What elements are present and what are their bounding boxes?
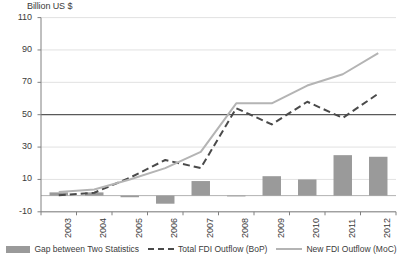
fdi-outflow-chart: Billion US $ 1109070503010-10 2003200420…	[0, 0, 403, 260]
line-series	[59, 53, 379, 192]
x-tick-label-2011: 2011	[347, 218, 357, 237]
x-tick-label-2007: 2007	[205, 218, 215, 238]
bar-swatch-icon	[6, 246, 30, 253]
x-tick-label-2004: 2004	[98, 218, 108, 238]
dashed-line-swatch-icon	[148, 248, 174, 250]
y-tick-label: 30	[8, 141, 32, 151]
legend-label-total-fdi: Total FDI Outflow (BoP)	[178, 244, 267, 254]
bar-2011	[334, 155, 352, 195]
bar-2008	[227, 196, 245, 197]
bar-2005	[121, 196, 139, 198]
solid-line-swatch-icon	[276, 248, 302, 250]
bar-2007	[192, 181, 210, 196]
bar-2006	[156, 196, 174, 204]
bar-2010	[298, 179, 316, 195]
x-tick-label-2006: 2006	[169, 218, 179, 238]
y-tick-label: 10	[8, 173, 32, 183]
line-series	[59, 94, 379, 196]
y-tick-label: 110	[8, 12, 32, 22]
y-tick-label: -10	[8, 206, 32, 216]
x-tick-label-2009: 2009	[276, 218, 286, 238]
legend-item-gap: Gap between Two Statistics	[6, 244, 139, 254]
bar-2012	[369, 157, 387, 196]
x-tick-label-2012: 2012	[382, 218, 392, 238]
x-tick-label-2003: 2003	[63, 218, 73, 238]
bar-2009	[263, 176, 281, 195]
legend-label-new-fdi: New FDI Outflow (MoC)	[306, 244, 396, 254]
x-tick-label-2005: 2005	[134, 218, 144, 238]
y-tick-label: 90	[8, 44, 32, 54]
y-tick-label: 50	[8, 109, 32, 119]
legend-item-new-fdi: New FDI Outflow (MoC)	[276, 244, 396, 254]
legend-item-total-fdi: Total FDI Outflow (BoP)	[148, 244, 267, 254]
y-tick-label: 70	[8, 76, 32, 86]
x-tick-label-2010: 2010	[311, 218, 321, 238]
legend-label-gap: Gap between Two Statistics	[34, 244, 139, 254]
x-tick-label-2008: 2008	[240, 218, 250, 238]
chart-legend: Gap between Two Statistics Total FDI Out…	[0, 241, 403, 257]
plot-area	[0, 0, 403, 260]
